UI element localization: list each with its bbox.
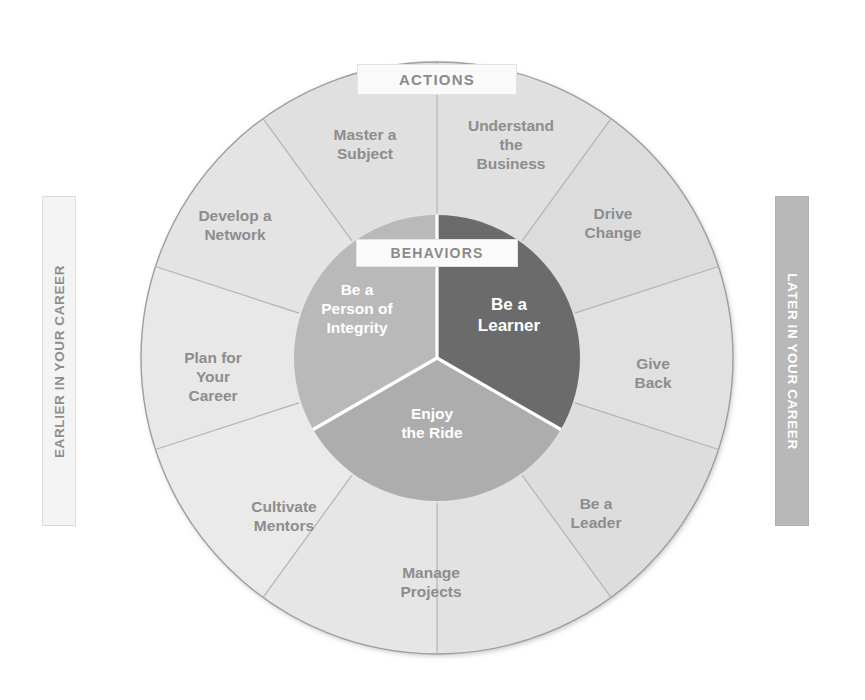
later-in-career-text: LATER IN YOUR CAREER — [785, 273, 800, 450]
behaviors-label-chip: BEHAVIORS — [356, 239, 518, 267]
diagram-canvas: UnderstandtheBusinessDriveChangeGiveBack… — [0, 0, 865, 700]
career-wheel-svg: UnderstandtheBusinessDriveChangeGiveBack… — [0, 0, 865, 700]
later-in-career-banner: LATER IN YOUR CAREER — [775, 196, 809, 526]
actions-label-chip: ACTIONS — [357, 64, 517, 95]
earlier-in-career-banner: EARLIER IN YOUR CAREER — [42, 196, 76, 526]
earlier-in-career-text: EARLIER IN YOUR CAREER — [52, 265, 67, 458]
